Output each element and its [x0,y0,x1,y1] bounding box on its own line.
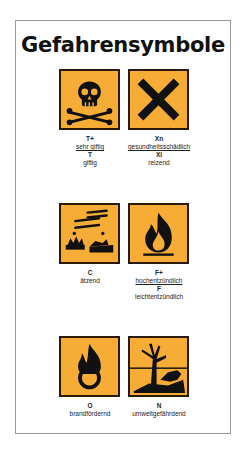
label-x: Xn gesundheitsschädlich Xi reizend [104,135,214,167]
label-f: F+ hochentzündlich F leichtentzündlich [104,269,214,301]
dead-tree-fish-icon [128,336,189,397]
x-cross-icon [128,69,189,130]
flame-icon [128,203,189,264]
label-n: N umweltgefährdend [104,402,214,418]
hazard-symbols-card: Gefahrensymbole [15,20,231,434]
page-title: Gefahrensymbole [16,33,230,57]
flame-over-circle-icon [59,336,120,397]
skull-crossbones-icon [59,69,120,130]
corrosive-icon [59,203,120,264]
